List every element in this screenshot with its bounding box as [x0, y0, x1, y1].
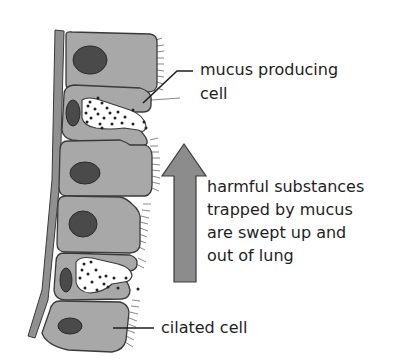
ciliated-cell-4: [42, 301, 129, 352]
ciliated-cell-2: [59, 140, 152, 196]
mucus-cell-label: mucus producing cell: [200, 60, 343, 103]
goblet-cell-1: [62, 85, 151, 146]
nucleus: [73, 46, 107, 74]
epithelium-diagram: mucus producing cell harmful substances …: [0, 0, 405, 359]
nucleus: [58, 318, 82, 334]
ciliated-cell-label: cilated cell: [161, 318, 247, 337]
nucleus: [69, 211, 97, 237]
upward-arrow: [162, 144, 206, 282]
ciliated-cell-3: [57, 196, 140, 253]
arrow-caption: harmful substances trapped by mucus are …: [207, 177, 369, 265]
nucleus: [70, 162, 100, 184]
goblet-cell-2: [54, 253, 140, 300]
nucleus: [60, 268, 72, 292]
nucleus: [66, 100, 80, 126]
ciliated-cell-1: [66, 32, 157, 92]
